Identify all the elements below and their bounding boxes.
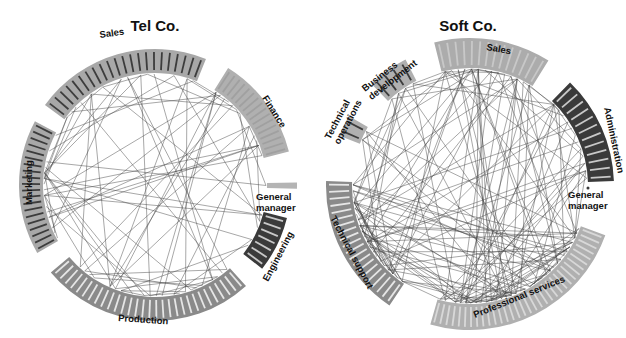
communication-edge	[128, 77, 213, 279]
communication-edge	[511, 82, 523, 296]
communication-edge	[360, 226, 575, 238]
communication-edge	[49, 126, 249, 217]
member-bar	[464, 41, 465, 65]
communication-edge	[80, 106, 232, 267]
communication-edge	[362, 88, 406, 231]
communication-edge	[466, 104, 554, 302]
segment-sales	[45, 49, 206, 119]
telco-communication-edges	[44, 74, 266, 296]
softco-network-panel: Soft Co. TechnicaloperationsBusinessdeve…	[322, 17, 626, 330]
member-bar	[146, 52, 147, 70]
communication-edge	[110, 145, 259, 286]
softco-communication-edges	[353, 69, 587, 303]
segment-band	[45, 49, 206, 119]
communication-edge	[81, 102, 223, 273]
label-general-manager: Generalmanager	[568, 189, 608, 211]
label-marketing: Marketing	[23, 160, 34, 205]
label-sales: Sales	[99, 26, 125, 40]
communication-edge	[44, 179, 251, 240]
member-bar	[161, 52, 162, 70]
telco-network-panel: Tel Co. SalesFinanceGeneralmanagerEngine…	[19, 17, 297, 327]
communication-edge	[154, 74, 212, 280]
communication-edge	[202, 126, 249, 285]
communication-edge	[370, 93, 398, 247]
segment-general-manager	[267, 183, 297, 189]
softco-title: Soft Co.	[439, 17, 497, 34]
communication-edge	[353, 185, 564, 256]
communication-edge	[529, 85, 559, 110]
communication-edge	[367, 233, 577, 242]
communication-edge	[389, 260, 561, 270]
member-bar	[465, 307, 466, 327]
communication-edge	[521, 85, 529, 291]
communication-edge	[46, 162, 266, 186]
communication-edge	[389, 69, 465, 270]
org-network-figure: Tel Co. SalesFinanceGeneralmanagerEngine…	[0, 0, 626, 338]
label-general-manager: Generalmanager	[256, 191, 296, 213]
communication-edge	[44, 195, 261, 215]
communication-edge	[393, 69, 465, 274]
communication-edge	[115, 92, 216, 288]
communication-edge	[44, 179, 262, 216]
communication-edge	[91, 94, 110, 286]
telco-title: Tel Co.	[131, 17, 180, 34]
communication-edge	[71, 95, 220, 112]
communication-edge	[399, 93, 507, 297]
communication-edge	[44, 145, 259, 189]
segment-band	[267, 183, 297, 189]
label-production: Production	[118, 312, 169, 326]
member-bar	[329, 191, 349, 192]
communication-edge	[85, 126, 250, 271]
